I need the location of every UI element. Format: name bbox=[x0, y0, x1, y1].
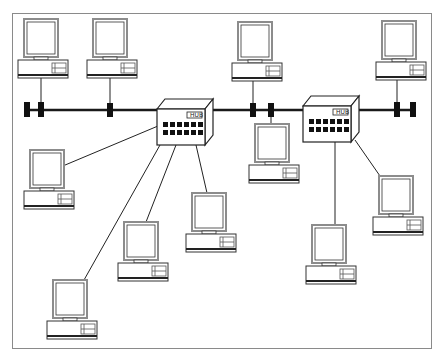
computer-icon-pc5 bbox=[249, 124, 299, 183]
link-hub1-pc6 bbox=[58, 126, 158, 168]
bus-tap-icon bbox=[38, 102, 44, 117]
bus-terminator-icon bbox=[410, 102, 416, 117]
hub-1: HUB bbox=[157, 99, 213, 145]
computer-icon-pc6 bbox=[24, 150, 74, 209]
link-hub1-pc8 bbox=[146, 145, 176, 222]
network-diagram: HUB HUB bbox=[0, 0, 442, 359]
computer-icon-pc2 bbox=[87, 19, 137, 78]
computer-icon-pc9 bbox=[47, 280, 97, 339]
computer-icon-pc10 bbox=[373, 176, 423, 235]
bus-tap-icon bbox=[107, 103, 113, 117]
computer-icon-pc8 bbox=[118, 222, 168, 281]
hub-2-label: HUB bbox=[336, 108, 349, 115]
hub-2: HUB bbox=[303, 96, 359, 142]
bus-tap-icon bbox=[268, 103, 274, 117]
bus-tap-icon bbox=[250, 103, 256, 117]
computer-icon-pc4 bbox=[376, 21, 426, 80]
computer-icon-pc7 bbox=[186, 193, 236, 252]
computer-icon-pc1 bbox=[18, 19, 68, 78]
computer-icon-pc3 bbox=[232, 22, 282, 81]
computer-icon-pc11 bbox=[306, 225, 356, 284]
link-hub1-pc7 bbox=[196, 145, 207, 193]
hub-1-label: HUB bbox=[190, 111, 203, 118]
bus-tap-icon bbox=[394, 102, 400, 117]
link-hub2-pc10 bbox=[355, 140, 380, 176]
bus-terminator-icon bbox=[24, 102, 30, 117]
